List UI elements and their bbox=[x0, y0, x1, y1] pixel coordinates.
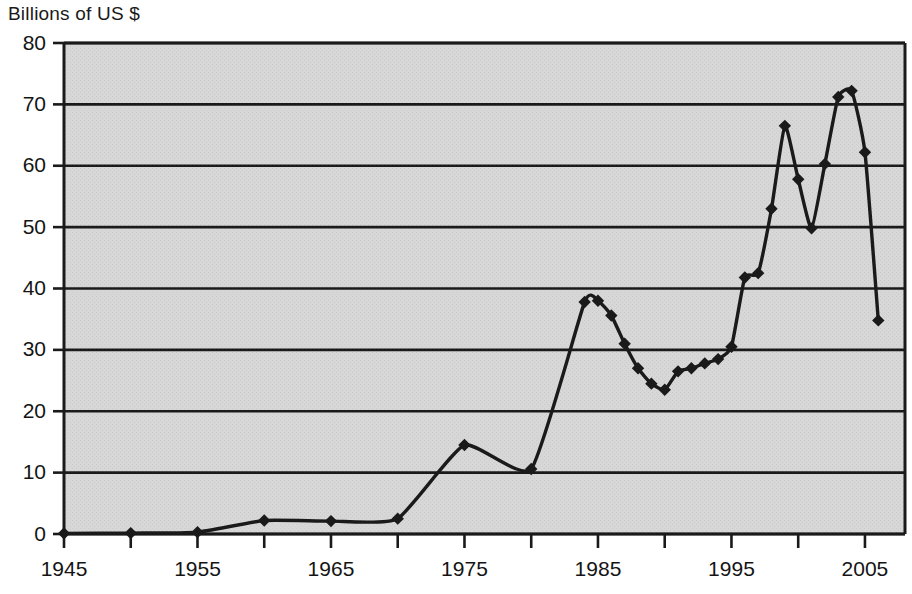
svg-text:30: 30 bbox=[23, 337, 46, 360]
svg-text:1985: 1985 bbox=[575, 557, 622, 580]
svg-text:1975: 1975 bbox=[441, 557, 488, 580]
chart-container: Billions of US $ 01020304050607080 19451… bbox=[0, 0, 912, 594]
svg-text:40: 40 bbox=[23, 276, 46, 299]
svg-text:0: 0 bbox=[34, 522, 46, 545]
svg-text:60: 60 bbox=[23, 153, 46, 176]
svg-text:20: 20 bbox=[23, 399, 46, 422]
y-axis-labels: 01020304050607080 bbox=[23, 31, 46, 545]
svg-text:1995: 1995 bbox=[708, 557, 755, 580]
x-axis-labels: 1945195519651975198519952005 bbox=[41, 557, 889, 580]
svg-text:1945: 1945 bbox=[41, 557, 88, 580]
svg-text:2005: 2005 bbox=[842, 557, 889, 580]
svg-text:80: 80 bbox=[23, 31, 46, 54]
y-axis-ticks bbox=[53, 43, 64, 534]
svg-text:10: 10 bbox=[23, 460, 46, 483]
svg-text:50: 50 bbox=[23, 215, 46, 238]
svg-text:1965: 1965 bbox=[308, 557, 355, 580]
x-axis-ticks bbox=[64, 534, 865, 548]
svg-text:1955: 1955 bbox=[174, 557, 221, 580]
svg-text:70: 70 bbox=[23, 92, 46, 115]
line-chart-plot: 01020304050607080 1945195519651975198519… bbox=[0, 0, 912, 594]
